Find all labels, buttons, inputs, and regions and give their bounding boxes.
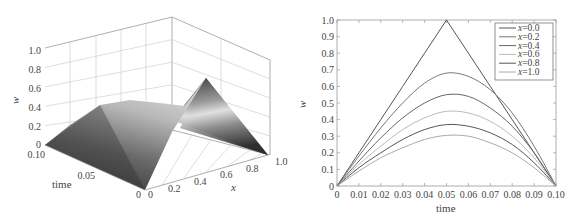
y-tick: 0.5: [322, 98, 335, 109]
x-tick: 0.2: [168, 183, 181, 194]
y-tick: 0.9: [322, 31, 335, 42]
time-tick: 0.05: [78, 170, 96, 181]
x-tick: 0.07: [482, 189, 500, 200]
surface-plot-panel: 0 0.2 0.4 0.6 0.8 1.0 w 0.10 0.05 0 time…: [0, 0, 290, 224]
time-tick: 0: [136, 189, 141, 200]
line-chart-panel: 00.10.20.30.40.50.60.70.80.91.0 00.010.0…: [290, 0, 581, 224]
legend-label: x=1.0: [517, 67, 540, 77]
x-tick: 0: [148, 189, 153, 200]
x-tick: 0.8: [246, 163, 259, 174]
z-tick: 0.4: [29, 102, 42, 113]
z-tick: 0.2: [29, 121, 42, 132]
y-tick: 0.3: [322, 131, 335, 142]
time-tick: 0.10: [28, 149, 46, 160]
x-tick: 0.05: [438, 189, 456, 200]
z-tick: 1.0: [29, 45, 42, 56]
x-tick: 0.02: [372, 189, 390, 200]
x-tick: 0.06: [460, 189, 478, 200]
y-tick: 0: [329, 181, 334, 192]
x-tick: 0.08: [503, 189, 521, 200]
x-tick: 0.01: [350, 189, 368, 200]
x-tick: 1.0: [275, 156, 288, 167]
x-tick: 0.03: [394, 189, 412, 200]
legend: x=0.0x=0.2x=0.4x=0.6x=0.8x=1.0: [495, 23, 553, 80]
x-axis-label: x: [230, 181, 236, 193]
y-tick: 0.2: [322, 147, 335, 158]
y-tick: 0.4: [322, 114, 335, 125]
z-tick: 0.8: [29, 64, 42, 75]
y-tick: 1.0: [322, 15, 335, 26]
z-axis-ticks: 0 0.2 0.4 0.6 0.8 1.0: [29, 45, 42, 150]
x-tick: 0.4: [194, 176, 207, 187]
line-chart: 00.10.20.30.40.50.60.70.80.91.0 00.010.0…: [290, 0, 581, 224]
x-axis-label: time: [436, 202, 456, 214]
x-axis-ticks: 0 0.2 0.4 0.6 0.8 1.0: [148, 156, 288, 200]
y-tick: 0.1: [322, 164, 335, 175]
time-axis-label: time: [52, 178, 72, 190]
x-tick: 0.6: [220, 169, 233, 180]
x-tick: 0.10: [547, 189, 565, 200]
z-tick: 0.6: [29, 83, 42, 94]
x-tick: 0.09: [525, 189, 543, 200]
z-axis-label: w: [9, 96, 21, 104]
y-tick: 0.7: [322, 64, 335, 75]
surface-plot: 0 0.2 0.4 0.6 0.8 1.0 w 0.10 0.05 0 time…: [0, 0, 290, 224]
x-tick: 0: [335, 189, 340, 200]
y-axis-label: w: [296, 100, 308, 108]
y-tick: 0.6: [322, 81, 335, 92]
x-tick: 0.04: [416, 189, 434, 200]
y-tick: 0.8: [322, 48, 335, 59]
